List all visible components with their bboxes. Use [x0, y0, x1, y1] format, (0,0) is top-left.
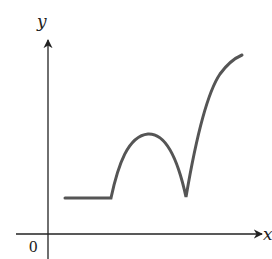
- origin-label: 0: [29, 238, 38, 255]
- x-axis-label: x: [263, 226, 272, 243]
- function-curve: [65, 55, 242, 198]
- y-axis-label: y: [37, 13, 47, 30]
- function-graph: [0, 0, 272, 259]
